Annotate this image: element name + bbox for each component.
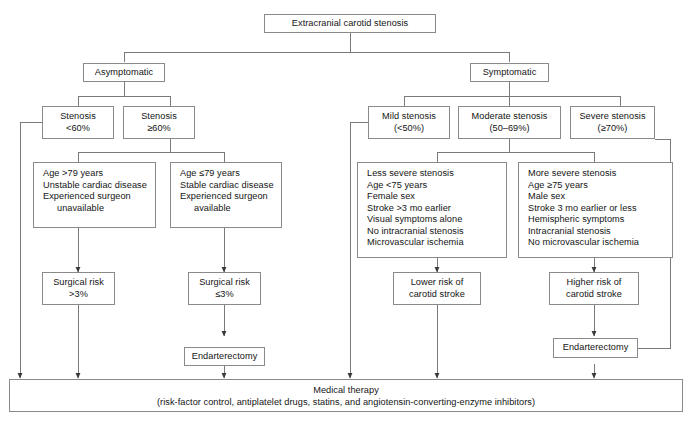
criteria-item: Age <75 years — [367, 180, 500, 192]
node-mild-stenosis: Mild stenosis (<50%) — [368, 106, 450, 139]
criteria-item: Age ≥75 years — [528, 180, 666, 192]
node-more-severe-stenosis-criteria: More severe stenosis Age ≥75 years Male … — [518, 162, 673, 258]
node-label-line2: ≥60% — [124, 123, 194, 134]
node-label: Symptomatic — [483, 67, 537, 78]
node-extracranial-carotid-stenosis: Extracranial carotid stenosis — [264, 14, 436, 33]
node-lines: Medical therapy (risk-factor control, an… — [10, 384, 682, 408]
node-asymptomatic-low-risk-criteria: Age ≤79 years Stable cardiac disease Exp… — [170, 162, 282, 228]
node-label-line2: (50–69%) — [459, 123, 560, 134]
node-label-line1: Mild stenosis — [369, 111, 449, 122]
node-lower-risk-carotid-stroke: Lower risk of carotid stroke — [393, 272, 481, 305]
node-severe-stenosis: Severe stenosis (≥70%) — [570, 106, 655, 139]
criteria-item: Microvascular ischemia — [367, 237, 500, 249]
node-medical-therapy: Medical therapy (risk-factor control, an… — [9, 379, 683, 412]
criteria-item: Stroke 3 mo earlier or less — [528, 203, 666, 215]
node-lines: Mild stenosis (<50%) — [369, 111, 449, 134]
node-label-line1: Surgical risk — [189, 277, 260, 288]
criteria-item: unavailable — [43, 203, 149, 215]
node-lines: Lower risk of carotid stroke — [394, 277, 480, 300]
node-asymptomatic-high-risk-criteria: Age >79 years Unstable cardiac disease E… — [33, 162, 156, 228]
node-label-line1: Higher risk of — [550, 277, 638, 288]
node-label-line1: Stenosis — [124, 111, 194, 122]
node-lines: Stenosis <60% — [43, 111, 113, 134]
node-label: Extracranial carotid stenosis — [292, 18, 408, 29]
node-label-line2: ≤3% — [189, 289, 260, 300]
criteria-item: Visual symptoms alone — [367, 214, 500, 226]
node-label-line1: Stenosis — [43, 111, 113, 122]
criteria-item: No microvascular ischemia — [528, 237, 666, 249]
node-label-line1: Moderate stenosis — [459, 111, 560, 122]
criteria-item: Age ≤79 years — [180, 168, 275, 180]
node-less-severe-stenosis-criteria: Less severe stenosis Age <75 years Femal… — [357, 162, 507, 258]
node-lines: Moderate stenosis (50–69%) — [459, 111, 560, 134]
criteria-item: Female sex — [367, 191, 500, 203]
criteria-item: Experienced surgeon — [43, 191, 149, 203]
node-symptomatic: Symptomatic — [470, 63, 549, 82]
criteria-item: Less severe stenosis — [367, 168, 500, 180]
node-label-line2: >3% — [43, 289, 114, 300]
criteria-item: Male sex — [528, 191, 666, 203]
node-surgical-risk-high: Surgical risk >3% — [42, 272, 115, 305]
node-label-line2: carotid stroke — [394, 289, 480, 300]
criteria-item: More severe stenosis — [528, 168, 666, 180]
node-label-line2: <60% — [43, 123, 113, 134]
node-label-line1: Medical therapy — [10, 384, 682, 396]
node-asymptomatic: Asymptomatic — [83, 63, 165, 82]
node-endarterectomy-asymptomatic: Endarterectomy — [184, 347, 265, 366]
node-label-line1: Surgical risk — [43, 277, 114, 288]
criteria-item: Age >79 years — [43, 168, 149, 180]
node-lines: Stenosis ≥60% — [124, 111, 194, 134]
node-label-line2: (<50%) — [369, 123, 449, 134]
node-label-line2: carotid stroke — [550, 289, 638, 300]
node-stenosis-lt-60: Stenosis <60% — [42, 106, 114, 139]
criteria-item: Stroke >3 mo earlier — [367, 203, 500, 215]
node-stenosis-ge-60: Stenosis ≥60% — [123, 106, 195, 139]
flowchart-canvas: Extracranial carotid stenosis Asymptomat… — [0, 0, 692, 429]
node-label-line1: Severe stenosis — [571, 111, 654, 122]
criteria-item: No intracranial stenosis — [367, 226, 500, 238]
node-label-line2: (≥70%) — [571, 123, 654, 134]
node-lines: Surgical risk >3% — [43, 277, 114, 300]
node-moderate-stenosis: Moderate stenosis (50–69%) — [458, 106, 561, 139]
node-label: Endarterectomy — [192, 351, 258, 362]
node-surgical-risk-low: Surgical risk ≤3% — [188, 272, 261, 305]
criteria-item: Stable cardiac disease — [180, 180, 275, 192]
node-label: Endarterectomy — [563, 342, 629, 353]
criteria-item: Unstable cardiac disease — [43, 180, 149, 192]
node-lines: Severe stenosis (≥70%) — [571, 111, 654, 134]
criteria-item: Experienced surgeon — [180, 191, 275, 203]
criteria-item: available — [180, 203, 275, 215]
node-endarterectomy-symptomatic: Endarterectomy — [553, 338, 638, 358]
node-higher-risk-carotid-stroke: Higher risk of carotid stroke — [549, 272, 639, 305]
node-lines: Higher risk of carotid stroke — [550, 277, 638, 300]
node-label-line1: Lower risk of — [394, 277, 480, 288]
criteria-item: Hemispheric symptoms — [528, 214, 666, 226]
node-lines: Surgical risk ≤3% — [189, 277, 260, 300]
node-label-line2: (risk-factor control, antiplatelet drugs… — [10, 396, 682, 408]
node-label: Asymptomatic — [95, 67, 153, 78]
criteria-item: Intracranial stenosis — [528, 226, 666, 238]
